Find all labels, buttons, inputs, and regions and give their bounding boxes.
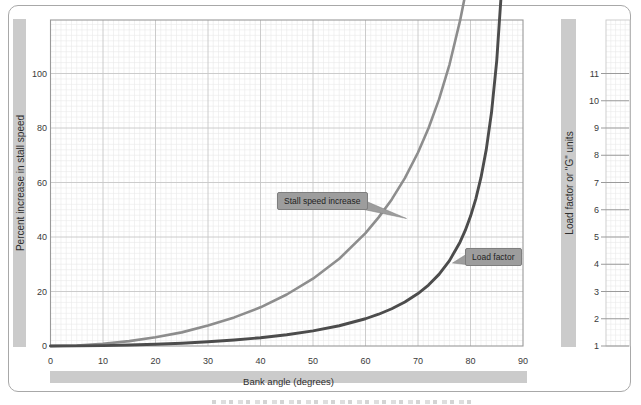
clipped-caption-sliver (212, 400, 474, 404)
right-tick-label: 10 (589, 96, 599, 106)
x-tick-label: 80 (465, 356, 475, 366)
x-tick-label: 30 (203, 356, 213, 366)
left-tick-label: 40 (37, 232, 47, 242)
x-tick-label: 60 (360, 356, 370, 366)
figure-stage: Percent increase in stall speed Load fac… (0, 0, 641, 405)
annotation-load-factor: Load factor (465, 248, 522, 266)
right-tick-label: 7 (594, 178, 599, 188)
left-tick-label: 60 (37, 178, 47, 188)
left-tick-label: 100 (32, 69, 47, 79)
x-tick-label: 50 (308, 356, 318, 366)
x-tick-label: 40 (255, 356, 265, 366)
right-tick-label: 2 (594, 314, 599, 324)
left-tick-label: 20 (37, 287, 47, 297)
right-tick-label: 4 (594, 259, 599, 269)
x-tick-label: 10 (98, 356, 108, 366)
right-tick-label: 8 (594, 150, 599, 160)
right-tick-label: 3 (594, 287, 599, 297)
x-tick-label: 0 (48, 356, 53, 366)
right-tick-label: 6 (594, 205, 599, 215)
x-tick-label: 70 (413, 356, 423, 366)
x-tick-label: 90 (518, 356, 528, 366)
x-axis-title-text: Bank angle (degrees) (243, 376, 334, 387)
x-tick-label: 20 (150, 356, 160, 366)
right-tick-label: 1 (594, 341, 599, 351)
right-tick-label: 5 (594, 232, 599, 242)
left-tick-label: 80 (37, 123, 47, 133)
right-tick-label: 9 (594, 123, 599, 133)
left-tick-label: 0 (42, 341, 47, 351)
annotation-stall-speed-increase: Stall speed increase (277, 192, 368, 210)
right-axis-tick-marks (601, 74, 629, 347)
x-axis-label-band: Bank angle (degrees) (50, 371, 527, 383)
right-tick-label: 11 (590, 69, 599, 79)
